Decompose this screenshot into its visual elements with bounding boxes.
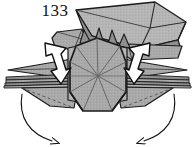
origami-diagram-svg [0, 0, 195, 147]
step-number: 133 [33, 1, 77, 21]
central-body [70, 38, 126, 111]
origami-diagram-figure: 133 [0, 0, 195, 147]
